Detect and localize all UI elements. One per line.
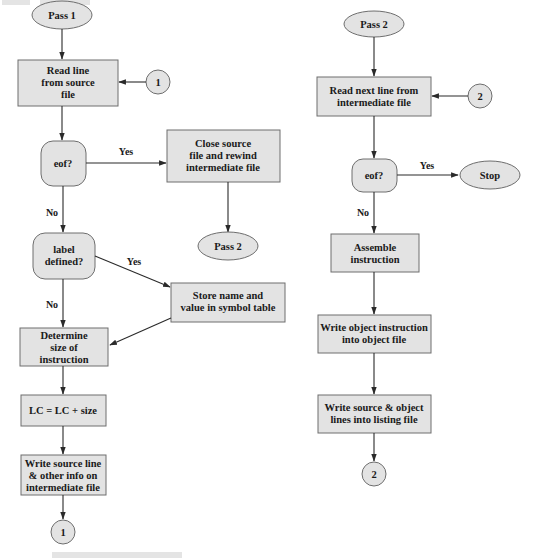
svg-text:Write source line: Write source line — [25, 458, 102, 469]
svg-text:from source: from source — [41, 77, 95, 88]
svg-text:1: 1 — [155, 77, 160, 88]
pass1-eof-no-label: No — [46, 207, 58, 218]
pass2-stop: Stop — [460, 161, 520, 189]
pass1-lc-update-box: LC = LC + size — [21, 395, 106, 426]
svg-text:Assemble: Assemble — [354, 242, 397, 253]
svg-text:2: 2 — [477, 91, 482, 102]
pass1-connector-out: 1 — [51, 520, 75, 544]
svg-text:into object file: into object file — [342, 334, 406, 345]
svg-text:Pass 2: Pass 2 — [360, 19, 388, 30]
svg-text:Read next line from: Read next line from — [330, 85, 419, 96]
header-fragment — [2, 0, 30, 5]
svg-text:2: 2 — [371, 469, 376, 480]
svg-text:label: label — [53, 244, 75, 255]
svg-text:file and rewind: file and rewind — [189, 150, 257, 161]
pass1-store-name-box: Store name and value in symbol table — [171, 283, 285, 322]
pass1-label-defined-decision: label defined? — [33, 233, 95, 279]
svg-text:value in symbol table: value in symbol table — [181, 302, 276, 313]
pass2-eof-decision: eof? — [352, 159, 397, 192]
pass2-eof-yes-label: Yes — [420, 160, 435, 171]
pass2-write-object-box: Write object instruction into object fil… — [318, 315, 431, 353]
pass1-read-line-box: Read line from source file — [18, 60, 118, 106]
pass1-connector-in: 1 — [146, 70, 170, 94]
svg-text:Write object instruction: Write object instruction — [320, 322, 428, 333]
svg-text:1: 1 — [60, 527, 65, 538]
svg-text:instruction: instruction — [350, 254, 399, 265]
svg-text:intermediate file: intermediate file — [186, 162, 260, 173]
pass1-close-source-box: Close source file and rewind intermediat… — [167, 130, 280, 182]
svg-text:LC = LC + size: LC = LC + size — [29, 405, 97, 416]
svg-text:& other info on: & other info on — [29, 470, 98, 481]
pass1-determine-size-box: Determine size of instruction — [20, 328, 108, 366]
svg-text:file: file — [61, 89, 75, 100]
caption-fragment — [52, 552, 182, 558]
pass1-label-yes-label: Yes — [127, 256, 142, 267]
pass2-write-listing-box: Write source & object lines into listing… — [318, 395, 431, 433]
pass1-label-no-label: No — [46, 299, 58, 310]
svg-text:Stop: Stop — [480, 170, 501, 181]
svg-text:size of: size of — [50, 342, 78, 353]
pass1-eof-yes-label: Yes — [119, 146, 134, 157]
svg-text:Determine: Determine — [40, 330, 88, 341]
pass1-eof-decision: eof? — [41, 141, 86, 186]
pass2-connector-in: 2 — [468, 84, 492, 108]
svg-text:Read line: Read line — [47, 65, 90, 76]
svg-text:Store name and: Store name and — [193, 290, 264, 301]
svg-text:defined?: defined? — [45, 256, 84, 267]
pass2-connector-out: 2 — [362, 462, 386, 486]
pass2-start: Pass 2 — [344, 11, 404, 37]
svg-text:Close source: Close source — [195, 138, 251, 149]
flowchart-canvas: Pass 1 Read line from source file 1 eof?… — [0, 0, 539, 560]
pass2-eof-no-label: No — [357, 207, 369, 218]
svg-text:eof?: eof? — [365, 170, 384, 181]
svg-text:Pass 2: Pass 2 — [214, 241, 242, 252]
pass2-read-next-box: Read next line from intermediate file — [317, 77, 431, 116]
svg-text:intermediate file: intermediate file — [337, 97, 411, 108]
svg-text:Pass 1: Pass 1 — [48, 10, 76, 21]
svg-text:lines into listing file: lines into listing file — [330, 414, 418, 425]
svg-text:instruction: instruction — [39, 354, 88, 365]
svg-text:Write source & object: Write source & object — [324, 402, 424, 413]
svg-text:eof?: eof? — [54, 158, 73, 169]
svg-text:intermediate file: intermediate file — [26, 482, 100, 493]
pass1-write-source-box: Write source line & other info on interm… — [21, 455, 106, 495]
pass1-start: Pass 1 — [32, 1, 92, 29]
pass2-assemble-box: Assemble instruction — [331, 234, 419, 272]
pass1-goto-pass2: Pass 2 — [198, 232, 258, 260]
